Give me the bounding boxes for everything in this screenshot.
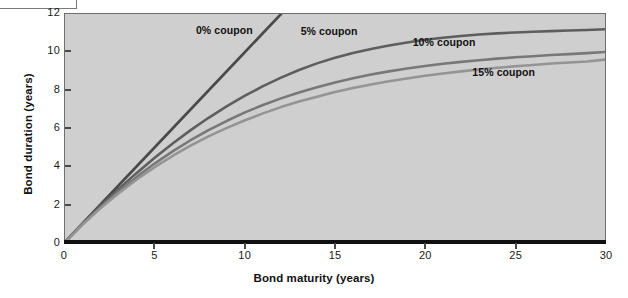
- plot-area: [64, 13, 606, 243]
- curve-15-coupon: [65, 60, 605, 242]
- x-tick-label: 0: [44, 249, 84, 261]
- curve-label-0-coupon: 0% coupon: [196, 24, 253, 36]
- curves-svg: [65, 14, 605, 242]
- x-tick-mark: [244, 243, 246, 249]
- y-tick-mark: [65, 204, 71, 206]
- x-tick-mark: [515, 243, 517, 249]
- x-axis-title: Bond maturity (years): [0, 272, 628, 284]
- curve-label-5-coupon: 5% coupon: [301, 25, 358, 37]
- curve-label-10-coupon: 10% coupon: [413, 36, 476, 48]
- x-tick-mark: [334, 243, 336, 249]
- curve-label-15-coupon: 15% coupon: [472, 66, 535, 78]
- y-tick-mark: [65, 165, 71, 167]
- x-tick-label: 15: [315, 249, 355, 261]
- y-tick-label: 0: [20, 236, 60, 248]
- curve-10-coupon: [65, 52, 605, 242]
- x-tick-label: 10: [225, 249, 265, 261]
- x-tick-label: 25: [496, 249, 536, 261]
- x-tick-mark: [424, 243, 426, 249]
- x-tick-mark: [153, 243, 155, 249]
- chart-figure: 024681012 Bond duration (years) 05101520…: [0, 0, 628, 298]
- y-tick-label: 12: [20, 6, 60, 18]
- y-tick-mark: [65, 50, 71, 52]
- curve-5-coupon: [65, 29, 605, 242]
- y-tick-mark: [65, 127, 71, 129]
- x-tick-label: 30: [586, 249, 626, 261]
- y-tick-mark: [65, 89, 71, 91]
- x-tick-label: 5: [134, 249, 174, 261]
- y-axis-title: Bond duration (years): [22, 34, 34, 234]
- x-tick-label: 20: [405, 249, 445, 261]
